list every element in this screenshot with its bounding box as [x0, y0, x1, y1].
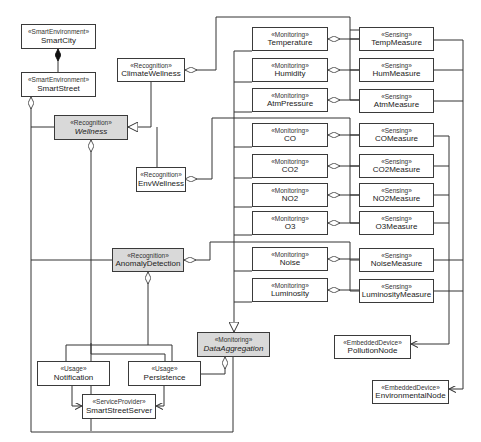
class-box-environmentalnode: «EmbeddedDevice»EnvironmentalNode: [372, 380, 449, 404]
class-box-pollutionnode: «EmbeddedDevice»PollutionNode: [334, 335, 411, 359]
stereotype-label: «SmartEnvironment»: [28, 76, 89, 83]
stereotype-label: «Monitoring»: [271, 31, 309, 38]
stereotype-label: «Sensing»: [381, 283, 412, 290]
stereotype-label: «Monitoring»: [271, 215, 309, 222]
stereotype-label: «Monitoring»: [271, 187, 309, 194]
class-name-label: CO2Measure: [373, 165, 421, 174]
class-name-label: Humidity: [274, 69, 305, 78]
stereotype-label: «ServiceProvider»: [92, 398, 145, 405]
class-name-label: HumMeasure: [372, 69, 420, 78]
class-name-label: Temperature: [268, 38, 313, 47]
class-box-temperature: «Monitoring»Temperature: [252, 27, 328, 51]
class-name-label: Notification: [54, 373, 94, 382]
stereotype-label: «SmartEnvironment»: [28, 28, 89, 35]
stereotype-label: «Sensing»: [381, 215, 412, 222]
class-name-label: AnomalyDetection: [116, 259, 181, 268]
class-name-label: CO2: [282, 165, 298, 174]
class-box-atmpressure: «Monitoring»AtmPressure: [252, 88, 328, 112]
stereotype-label: «Sensing»: [381, 31, 412, 38]
stereotype-label: «Recognition»: [127, 252, 169, 259]
class-name-label: SmartStreetServer: [86, 406, 152, 415]
class-box-humidity: «Monitoring»Humidity: [252, 58, 328, 82]
class-box-wellness: «Recognition»Wellness: [54, 115, 128, 140]
class-name-label: Luminosity: [271, 289, 309, 298]
stereotype-label: «Sensing»: [381, 62, 412, 69]
stereotype-label: «Recognition»: [70, 119, 112, 126]
class-box-envwellness: «Recognition»EnvWellness: [136, 167, 186, 192]
class-name-label: Wellness: [75, 127, 107, 136]
stereotype-label: «Sensing»: [381, 158, 412, 165]
stereotype-label: «Monitoring»: [215, 336, 253, 343]
class-name-label: SmartCity: [41, 36, 76, 45]
class-box-anomalydetection: «Recognition»AnomalyDetection: [112, 248, 184, 272]
class-box-noise: «Monitoring»Noise: [252, 247, 328, 271]
class-name-label: TempMeasure: [371, 38, 422, 47]
class-name-label: DataAggregation: [203, 344, 263, 353]
class-box-atmmeasure: «Sensing»AtmMeasure: [359, 89, 434, 113]
stereotype-label: «Usage»: [151, 365, 177, 372]
stereotype-label: «EmbeddedDevice»: [381, 384, 440, 391]
stereotype-label: «Sensing»: [381, 127, 412, 134]
class-box-no2: «Monitoring»NO2: [252, 183, 328, 207]
stereotype-label: «Monitoring»: [271, 251, 309, 258]
class-box-tempmeasure: «Sensing»TempMeasure: [359, 27, 434, 51]
stereotype-label: «Sensing»: [381, 93, 412, 100]
generalization-climatewellness: [128, 82, 151, 127]
stereotype-label: «Monitoring»: [271, 92, 309, 99]
class-box-smartstreetserver: «ServiceProvider»SmartStreetServer: [82, 394, 156, 419]
stereotype-label: «Sensing»: [381, 187, 412, 194]
class-name-label: NO2Measure: [373, 194, 421, 203]
class-name-label: EnvironmentalNode: [375, 391, 445, 400]
class-box-no2measure: «Sensing»NO2Measure: [359, 183, 434, 207]
class-box-hummeasure: «Sensing»HumMeasure: [359, 58, 434, 82]
class-box-o3: «Monitoring»O3: [252, 211, 328, 235]
stereotype-label: «Recognition»: [140, 171, 182, 178]
stereotype-label: «Monitoring»: [271, 158, 309, 165]
class-name-label: NoiseMeasure: [371, 259, 423, 268]
class-box-notification: «Usage»Notification: [37, 361, 110, 386]
class-name-label: LuminosityMeasure: [362, 290, 431, 299]
class-name-label: Persistence: [144, 373, 186, 382]
class-name-label: Noise: [280, 258, 300, 267]
class-box-luminositymeasure: «Sensing»LuminosityMeasure: [359, 279, 434, 303]
class-box-climatewellness: «Recognition»ClimateWellness: [117, 58, 185, 82]
stereotype-label: «Usage»: [60, 365, 86, 372]
class-box-o3measure: «Sensing»O3Measure: [359, 211, 434, 235]
class-name-label: AtmMeasure: [374, 100, 419, 109]
class-name-label: O3Measure: [376, 222, 418, 231]
class-box-luminosity: «Monitoring»Luminosity: [252, 278, 328, 302]
stereotype-label: «Monitoring»: [271, 282, 309, 289]
class-name-label: ClimateWellness: [121, 69, 180, 78]
uml-class-diagram: «SmartEnvironment»SmartCity«SmartEnviron…: [0, 0, 481, 442]
class-name-label: AtmPressure: [267, 99, 313, 108]
class-name-label: EnvWellness: [138, 179, 184, 188]
class-box-smartcity: «SmartEnvironment»SmartCity: [21, 24, 96, 49]
class-box-co2measure: «Sensing»CO2Measure: [359, 154, 434, 178]
class-box-smartstreet: «SmartEnvironment»SmartStreet: [21, 72, 96, 97]
class-box-co: «Monitoring»CO: [252, 123, 328, 147]
class-name-label: SmartStreet: [37, 84, 80, 93]
class-box-dataaggregation: «Monitoring»DataAggregation: [197, 332, 270, 357]
class-name-label: CO: [284, 134, 296, 143]
stereotype-label: «Monitoring»: [271, 127, 309, 134]
stereotype-label: «Monitoring»: [271, 62, 309, 69]
stereotype-label: «Recognition»: [130, 62, 172, 69]
class-box-noisemeasure: «Sensing»NoiseMeasure: [359, 248, 434, 272]
class-box-co2: «Monitoring»CO2: [252, 154, 328, 178]
class-box-persistence: «Usage»Persistence: [128, 361, 201, 386]
stereotype-label: «EmbeddedDevice»: [343, 339, 402, 346]
class-name-label: NO2: [282, 194, 298, 203]
stereotype-label: «Sensing»: [381, 252, 412, 259]
class-name-label: O3: [285, 222, 296, 231]
class-name-label: COMeasure: [375, 134, 418, 143]
class-box-comeasure: «Sensing»COMeasure: [359, 123, 434, 147]
class-name-label: PollutionNode: [348, 346, 398, 355]
